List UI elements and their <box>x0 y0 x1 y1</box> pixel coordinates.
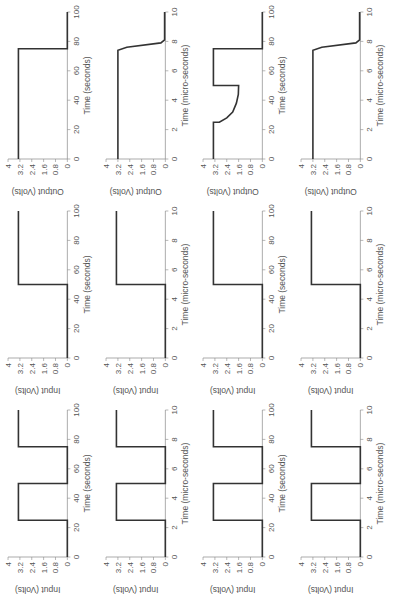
x-tick-label: 4 <box>365 97 374 102</box>
chart-grid: 00.81.62.43.24020406080100Time (seconds)… <box>0 0 390 597</box>
y-tick-label: 4 <box>102 163 111 168</box>
x-tick-label: 0 <box>170 355 179 360</box>
y-axis-label: Input (Volts) <box>307 585 353 595</box>
x-tick-label: 80 <box>72 434 81 443</box>
x-tick-label: 100 <box>267 403 276 417</box>
x-tick-label: 4 <box>365 296 374 301</box>
x-tick-label: 40 <box>72 493 81 502</box>
x-tick-label: 0 <box>72 156 81 161</box>
x-tick-label: 80 <box>267 36 276 45</box>
x-tick-label: 10 <box>170 405 179 414</box>
x-tick-label: 80 <box>72 36 81 45</box>
chart-r2c3: 00.81.62.43.240246810Time (micro-seconds… <box>98 199 196 398</box>
x-tick-label: 100 <box>72 403 81 417</box>
y-tick-label: 0.8 <box>344 362 353 374</box>
y-tick-label: 2.4 <box>28 561 37 573</box>
y-tick-label: 3.2 <box>211 561 220 573</box>
x-tick-label: 60 <box>267 66 276 75</box>
chart-r2c1: 00.81.62.43.240246810Time (micro-seconds… <box>293 199 391 398</box>
x-tick-label: 8 <box>170 238 179 243</box>
x-tick-label: 0 <box>365 355 374 360</box>
x-tick-label: 60 <box>72 66 81 75</box>
x-tick-label: 10 <box>365 405 374 414</box>
x-axis-label: Time (micro-seconds) <box>375 442 385 524</box>
x-tick-label: 0 <box>72 554 81 559</box>
x-tick-label: 6 <box>365 466 374 471</box>
y-tick-label: 0 <box>161 163 170 168</box>
y-tick-label: 3.2 <box>308 163 317 175</box>
x-tick-label: 100 <box>72 204 81 218</box>
y-tick-label: 4 <box>297 163 306 168</box>
y-tick-label: 2.4 <box>28 163 37 175</box>
y-tick-label: 1.6 <box>137 362 146 374</box>
chart-r1c3: 00.81.62.43.240246810Time (micro-seconds… <box>98 398 196 597</box>
x-tick-label: 2 <box>365 127 374 132</box>
y-axis-label: Input (Volts) <box>112 585 158 595</box>
x-axis-label: Time (micro-seconds) <box>180 243 190 325</box>
signal-line <box>116 410 165 557</box>
y-tick-label: 1.6 <box>40 561 49 573</box>
x-tick-label: 40 <box>267 294 276 303</box>
x-tick-label: 0 <box>72 355 81 360</box>
y-tick-label: 4 <box>199 362 208 367</box>
y-tick-label: 3.2 <box>211 163 220 175</box>
x-tick-label: 60 <box>72 464 81 473</box>
y-tick-label: 2.4 <box>223 362 232 374</box>
x-tick-label: 60 <box>267 464 276 473</box>
x-tick-label: 100 <box>267 5 276 19</box>
x-tick-label: 8 <box>170 39 179 44</box>
x-tick-label: 8 <box>170 437 179 442</box>
x-tick-label: 6 <box>365 267 374 272</box>
chart-r1c1: 00.81.62.43.240246810Time (micro-seconds… <box>293 398 391 597</box>
y-tick-label: 1.6 <box>332 163 341 175</box>
y-tick-label: 3.2 <box>211 362 220 374</box>
y-tick-label: 0 <box>161 561 170 566</box>
y-tick-label: 0.8 <box>149 362 158 374</box>
x-tick-label: 40 <box>72 294 81 303</box>
y-tick-label: 0.8 <box>51 362 60 374</box>
x-tick-label: 80 <box>267 235 276 244</box>
y-tick-label: 0 <box>356 561 365 566</box>
x-tick-label: 0 <box>267 355 276 360</box>
y-axis-label: Output (Volts) <box>206 187 258 197</box>
x-tick-label: 8 <box>365 437 374 442</box>
x-tick-label: 2 <box>170 127 179 132</box>
y-tick-label: 2.4 <box>28 362 37 374</box>
y-tick-label: 0 <box>258 561 267 566</box>
x-tick-label: 8 <box>365 238 374 243</box>
x-tick-label: 20 <box>267 523 276 532</box>
y-tick-label: 0 <box>63 561 72 566</box>
y-axis-label: Input (Volts) <box>15 386 61 396</box>
chart-r3c1: 00.81.62.43.240246810Time (micro-seconds… <box>293 0 391 199</box>
y-tick-label: 0 <box>63 362 72 367</box>
chart-r3c4: 00.81.62.43.24020406080100Time (seconds)… <box>0 0 98 199</box>
x-axis-label: Time (seconds) <box>82 56 92 114</box>
y-tick-label: 4 <box>4 362 13 367</box>
x-tick-label: 80 <box>267 434 276 443</box>
x-tick-label: 6 <box>170 466 179 471</box>
x-axis-label: Time (seconds) <box>82 454 92 512</box>
y-tick-label: 2.4 <box>223 561 232 573</box>
y-tick-label: 4 <box>199 163 208 168</box>
x-tick-label: 100 <box>267 204 276 218</box>
y-axis-label: Input (Volts) <box>210 585 256 595</box>
signal-line <box>116 211 165 358</box>
x-tick-label: 0 <box>170 554 179 559</box>
x-tick-label: 40 <box>267 493 276 502</box>
y-tick-label: 1.6 <box>332 561 341 573</box>
x-tick-label: 0 <box>267 554 276 559</box>
x-tick-label: 20 <box>72 523 81 532</box>
x-tick-label: 2 <box>170 525 179 530</box>
y-tick-label: 4 <box>102 362 111 367</box>
x-tick-label: 10 <box>170 7 179 16</box>
x-tick-label: 80 <box>72 235 81 244</box>
y-axis-label: Input (Volts) <box>210 386 256 396</box>
y-axis-label: Output (Volts) <box>109 187 161 197</box>
y-tick-label: 0.8 <box>246 362 255 374</box>
x-tick-label: 40 <box>72 95 81 104</box>
x-tick-label: 10 <box>170 206 179 215</box>
signal-line <box>213 12 262 159</box>
x-tick-label: 60 <box>267 265 276 274</box>
signal-line <box>18 410 67 557</box>
y-tick-label: 2.4 <box>125 163 134 175</box>
